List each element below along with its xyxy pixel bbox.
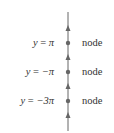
classification-label: node: [82, 37, 102, 49]
eq-sign: =: [25, 95, 36, 106]
equilibrium-dot: [66, 41, 70, 45]
arrow-up-icon: [66, 112, 71, 118]
classification-label: node: [82, 66, 102, 78]
eq-value: −π: [42, 66, 54, 77]
equilibrium-dot: [66, 99, 70, 103]
eq-value: −3π: [36, 95, 54, 106]
eq-sign: =: [38, 37, 49, 48]
eq-sign: =: [30, 66, 41, 77]
arrow-up-icon: [66, 83, 71, 89]
equilibrium-label: y = −π: [26, 66, 54, 78]
classification-label: node: [82, 95, 102, 107]
equilibrium-label: y = −3π: [21, 95, 54, 107]
arrow-up-icon: [66, 54, 71, 60]
eq-value: π: [49, 37, 54, 48]
equilibrium-dot: [66, 70, 70, 74]
equilibrium-label: y = π: [33, 37, 54, 49]
arrow-up-icon: [66, 25, 71, 31]
